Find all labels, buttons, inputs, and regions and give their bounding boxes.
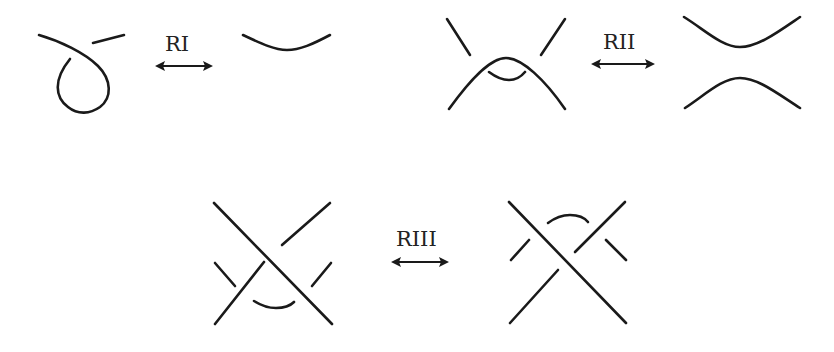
rii-right-separated-strands bbox=[684, 17, 800, 108]
ri-right-plain-strand bbox=[243, 35, 330, 50]
riii-right-configuration bbox=[509, 202, 626, 323]
rii-left-two-crossings bbox=[447, 19, 565, 109]
rii-arrow bbox=[591, 59, 655, 69]
riii-arrow bbox=[391, 257, 449, 267]
rii-label: RII bbox=[603, 30, 635, 54]
ri-label: RI bbox=[165, 32, 189, 56]
riii-label: RIII bbox=[396, 227, 437, 251]
reidemeister-moves-diagram: RI RII RIII bbox=[0, 0, 834, 352]
ri-left-kinked-strand bbox=[39, 35, 124, 113]
ri-arrow bbox=[155, 61, 213, 71]
riii-left-configuration bbox=[214, 203, 332, 324]
